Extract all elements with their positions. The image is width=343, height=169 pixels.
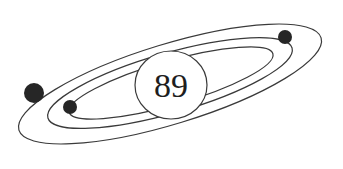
electron-inner-left [63, 100, 77, 114]
electron-middle-right [278, 30, 292, 44]
atom-diagram: 89 [0, 0, 343, 169]
nucleus-label: 89 [154, 67, 188, 104]
electron-outer-left [24, 83, 44, 103]
nucleus: 89 [135, 51, 207, 119]
